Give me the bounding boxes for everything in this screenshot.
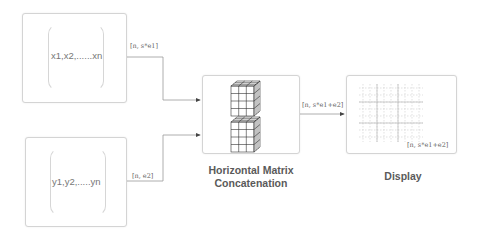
display-caption: Display	[360, 170, 446, 183]
vector-y-text: y1,y2,.....yn	[52, 176, 101, 187]
concat-box	[202, 75, 300, 154]
concat-output-label: [n, s*e1+e2]	[302, 101, 343, 109]
display-box: [n, s*e1+e2]	[346, 75, 457, 154]
concat-caption-line2: Concatenation	[195, 177, 307, 190]
stacked-cube-grid-icon	[203, 76, 301, 155]
input-vector-x-box: x1,x2,......xn	[22, 13, 127, 103]
display-shape-label: [n, s*e1+e2]	[407, 141, 448, 149]
input-vector-y-box: y1,y2,.....yn	[25, 137, 127, 227]
shape-label-x: [n, s*e1]	[130, 42, 158, 50]
vector-x-text: x1,x2,......xn	[51, 50, 102, 61]
shape-label-y: [n, e2]	[132, 172, 153, 180]
concat-caption: Horizontal Matrix Concatenation	[195, 164, 307, 190]
concat-caption-line1: Horizontal Matrix	[195, 164, 307, 177]
